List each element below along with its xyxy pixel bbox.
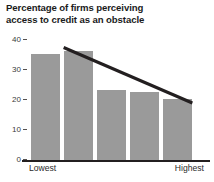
chart-title-line-1: Percentage of firms perceiving bbox=[6, 2, 206, 14]
plot-area: 40 30 20 10 0 bbox=[31, 40, 196, 160]
y-axis-tick-dash bbox=[23, 69, 27, 70]
downward-trend-line bbox=[64, 48, 193, 104]
y-axis-tick-dash bbox=[23, 99, 27, 100]
y-axis-tick-dash bbox=[23, 39, 27, 40]
chart-title: Percentage of firms perceiving access to… bbox=[6, 2, 206, 25]
x-axis-label-highest: Highest bbox=[175, 163, 204, 173]
x-axis-baseline bbox=[22, 160, 210, 162]
y-axis-tick-40: 40 bbox=[12, 36, 27, 44]
y-axis-tick-label-30: 30 bbox=[12, 65, 21, 74]
y-axis-tick-dash bbox=[23, 129, 27, 130]
y-axis-tick-30: 30 bbox=[12, 66, 27, 74]
y-axis-tick-10: 10 bbox=[12, 126, 27, 134]
y-axis-tick-20: 20 bbox=[12, 96, 27, 104]
chart-title-line-2: access to credit as an obstacle bbox=[6, 14, 206, 26]
x-axis-label-lowest: Lowest bbox=[29, 163, 56, 173]
chart-figure: Percentage of firms perceiving access to… bbox=[0, 0, 214, 182]
y-axis-tick-label-0: 0 bbox=[17, 155, 21, 164]
y-axis-tick-label-40: 40 bbox=[12, 35, 21, 44]
y-axis-tick-label-10: 10 bbox=[12, 125, 21, 134]
y-axis-tick-label-20: 20 bbox=[12, 95, 21, 104]
trend-line-overlay bbox=[31, 40, 196, 160]
